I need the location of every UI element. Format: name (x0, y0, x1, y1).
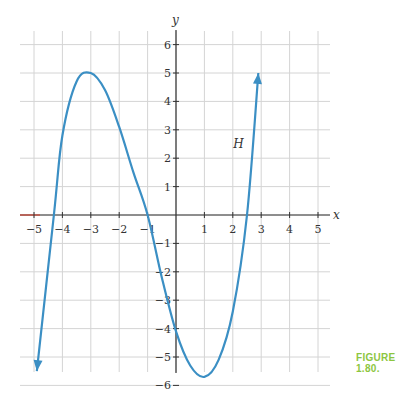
chart: xy−5−4−3−2−112345−6−5−4−3−2−1123456H (0, 0, 416, 416)
x-tick-label: 1 (201, 223, 208, 236)
y-tick-label: 1 (164, 181, 171, 194)
x-tick-label: −2 (111, 223, 127, 236)
y-tick-label: −1 (155, 237, 171, 250)
y-tick-label: 2 (164, 152, 171, 165)
y-tick-label: 3 (164, 124, 171, 137)
x-tick-label: 3 (258, 223, 265, 236)
y-tick-label: −2 (155, 266, 171, 279)
x-tick-label: 5 (315, 223, 322, 236)
curve-label: H (232, 137, 244, 151)
y-tick-label: −6 (155, 379, 171, 392)
x-tick-label: −4 (54, 223, 70, 236)
y-tick-label: −5 (155, 351, 171, 364)
figure-caption: FIGURE 1.80. (356, 352, 416, 374)
y-tick-label: −4 (155, 323, 171, 336)
x-tick-label: 2 (229, 223, 236, 236)
x-axis-label: x (333, 208, 340, 222)
y-axis-label: y (171, 13, 179, 27)
x-tick-label: −5 (26, 223, 42, 236)
y-tick-label: 6 (164, 39, 171, 52)
y-tick-label: 5 (164, 67, 171, 80)
x-tick-label: 4 (286, 223, 293, 236)
x-tick-label: −3 (83, 223, 99, 236)
y-tick-label: 4 (164, 95, 171, 108)
